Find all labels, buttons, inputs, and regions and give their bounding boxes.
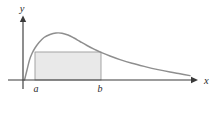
- x-axis-arrowhead: [191, 77, 198, 84]
- x-axis-label: x: [203, 75, 209, 86]
- tick-label-b: b: [98, 83, 103, 94]
- shaded-rectangle-region: [35, 52, 101, 80]
- y-axis-arrowhead: [20, 16, 26, 23]
- function-plot-svg: y x a b: [0, 0, 220, 114]
- y-axis-label: y: [19, 3, 25, 14]
- figure-container: y x a b: [0, 0, 220, 114]
- tick-label-a: a: [34, 83, 39, 94]
